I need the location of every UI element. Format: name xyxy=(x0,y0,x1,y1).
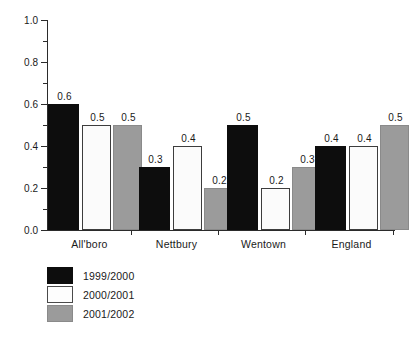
bar-value-england-1999-2000: 0.4 xyxy=(315,134,348,144)
legend-swatch-icon-2001-2002 xyxy=(47,305,73,322)
bar-nettbury-1999-2000 xyxy=(139,167,170,230)
bar-value-wentown-2001-2002: 0.3 xyxy=(292,155,323,165)
bar-allboro-1999-2000 xyxy=(48,104,79,230)
y-tick-label-2: 0.4 xyxy=(8,142,38,152)
x-tick-sep-4 xyxy=(393,230,394,235)
bar-value-allboro-2000-2001: 0.5 xyxy=(82,113,113,123)
legend-item-2001-2002: 2001/2002 xyxy=(47,304,134,323)
legend-label-2001-2002: 2001/2002 xyxy=(83,308,134,320)
y-tick-label-0: 0.0 xyxy=(8,226,38,236)
y-tick-label-3: 0.6 xyxy=(8,100,38,110)
x-category-label-allboro: All'boro xyxy=(48,238,131,250)
y-tick-label-1: 0.2 xyxy=(8,184,38,194)
bar-chart: 0.0 0.2 0.4 0.6 0.8 1.0 xyxy=(0,0,411,344)
bar-value-wentown-1999-2000: 0.5 xyxy=(227,113,260,123)
y-tick-label-4: 0.8 xyxy=(8,58,38,68)
bar-england-2000-2001 xyxy=(349,146,378,230)
bar-value-allboro-2001-2002: 0.5 xyxy=(113,113,144,123)
legend-item-2000-2001: 2000/2001 xyxy=(47,285,134,304)
y-tick-label-5: 1.0 xyxy=(8,16,38,26)
legend-label-2000-2001: 2000/2001 xyxy=(83,289,134,301)
legend-item-1999-2000: 1999/2000 xyxy=(47,266,134,285)
bar-value-nettbury-2001-2002: 0.2 xyxy=(204,176,235,186)
x-tick-sep-2 xyxy=(218,230,219,235)
x-axis-line xyxy=(47,230,395,231)
bar-allboro-2000-2001 xyxy=(82,125,111,230)
x-tick-sep-3 xyxy=(305,230,306,235)
bar-allboro-2001-2002 xyxy=(113,125,142,230)
bar-england-2001-2002 xyxy=(380,125,409,230)
legend-swatch-icon-1999-2000 xyxy=(47,267,73,284)
plot-area xyxy=(47,20,394,230)
x-category-label-nettbury: Nettbury xyxy=(135,238,218,250)
bar-value-allboro-1999-2000: 0.6 xyxy=(48,92,81,102)
x-category-label-england: England xyxy=(310,238,393,250)
bar-wentown-2000-2001 xyxy=(261,188,290,230)
bar-value-england-2000-2001: 0.4 xyxy=(349,134,380,144)
bar-value-wentown-2000-2001: 0.2 xyxy=(261,176,292,186)
bar-value-nettbury-1999-2000: 0.3 xyxy=(139,155,172,165)
bar-value-nettbury-2000-2001: 0.4 xyxy=(173,134,204,144)
legend-label-1999-2000: 1999/2000 xyxy=(83,270,134,282)
legend-swatch-icon-2000-2001 xyxy=(47,286,73,303)
bar-value-england-2001-2002: 0.5 xyxy=(380,113,411,123)
x-category-label-wentown: Wentown xyxy=(222,238,305,250)
bar-nettbury-2000-2001 xyxy=(173,146,202,230)
x-tick-sep-1 xyxy=(131,230,132,235)
legend: 1999/2000 2000/2001 2001/2002 xyxy=(47,266,134,323)
